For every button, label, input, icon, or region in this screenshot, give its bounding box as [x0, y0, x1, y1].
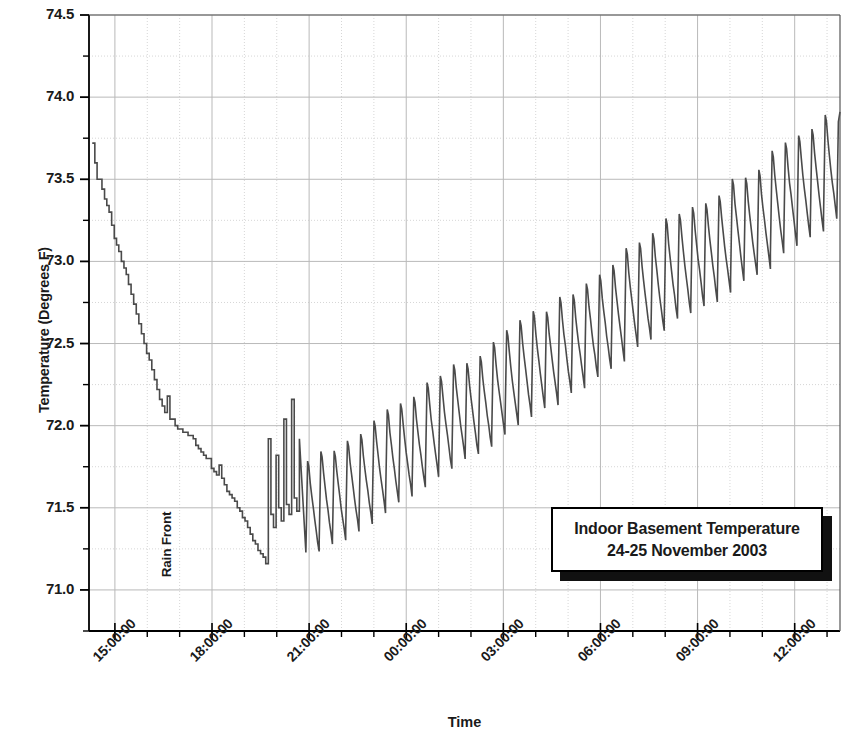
x-tick-label: 15:00:00 — [89, 615, 138, 664]
x-tick-label: 06:00:00 — [575, 615, 624, 664]
legend-title-line: Indoor Basement Temperature — [574, 518, 799, 540]
legend-date-line: 24-25 November 2003 — [607, 540, 767, 562]
x-tick-label: 18:00:00 — [186, 615, 235, 664]
x-axis-title: Time — [89, 714, 840, 730]
x-tick-label: 09:00:00 — [672, 615, 721, 664]
x-tick-label: 12:00:00 — [769, 615, 818, 664]
chart-figure: 74.574.073.573.072.572.071.571.0 15:00:0… — [0, 0, 859, 739]
x-tick-label: 21:00:00 — [283, 615, 332, 664]
legend-box: Indoor Basement Temperature 24-25 Novemb… — [551, 507, 823, 572]
rain-front-annotation: Rain Front — [159, 497, 174, 592]
x-tick-label: 00:00:00 — [381, 615, 430, 664]
x-tick-label: 03:00:00 — [478, 615, 527, 664]
y-axis-title: Temperature (Degrees F) — [36, 200, 52, 460]
x-axis-tick-labels: 15:00:0018:00:0021:00:0000:00:0003:00:00… — [0, 0, 859, 739]
